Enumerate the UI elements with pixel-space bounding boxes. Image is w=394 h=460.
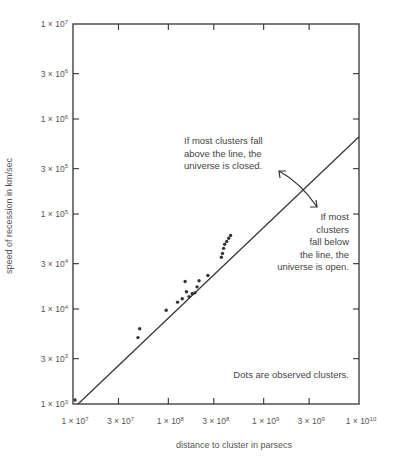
double-arrow-icon [279,171,317,207]
annotation-open-universe: fall below [309,236,349,247]
annotation-open-universe: universe is open. [277,261,349,272]
cluster-point [136,336,139,339]
y-tick-label: 1 × 104 [41,304,69,315]
cluster-point [187,295,190,298]
y-tick-label: 3 × 104 [41,258,69,269]
y-tick-label: 1 × 106 [41,114,69,125]
cluster-point [221,252,224,255]
cluster-point [206,274,209,277]
y-axis-title: speed of recession in km/sec [4,157,14,274]
cluster-point [73,398,76,401]
cluster-point [227,237,230,240]
x-tick-label: 1 × 109 [252,416,280,427]
annotation-closed-universe: If most clusters fall [184,135,263,146]
cluster-point [195,285,198,288]
x-tick-label: 1 × 108 [157,416,185,427]
cluster-point [225,240,228,243]
plot-frame [73,24,359,404]
y-tick-label: 1 × 105 [41,209,69,220]
annotation-open-universe: If most [320,211,349,222]
x-tick-label: 3 × 109 [298,416,326,427]
cluster-point [229,234,232,237]
cluster-point [185,290,188,293]
y-tick-label: 3 × 105 [41,163,69,174]
x-tick-label: 1 × 1010 [346,416,377,427]
y-tick-label: 1 × 103 [41,399,69,410]
cluster-point [223,243,226,246]
cluster-point [183,280,186,283]
cluster-point [165,309,168,312]
y-tick-label: 3 × 106 [41,68,69,79]
cluster-point [222,247,225,250]
x-axis-title: distance to cluster in parsecs [176,440,293,450]
cluster-point [138,327,141,330]
annotation-open-universe: the line, the [300,249,349,260]
x-tick-label: 1 × 107 [61,416,89,427]
y-tick-label: 3 × 103 [41,353,69,364]
x-tick-label: 3 × 107 [107,416,135,427]
annotation-closed-universe: universe is closed. [184,160,262,171]
y-tick-label: 1 × 107 [41,19,69,30]
cluster-point [176,300,179,303]
x-tick-label: 3 × 108 [202,416,230,427]
annotation-closed-universe: above the line, the [184,148,262,159]
cluster-point [193,291,196,294]
hubble-diagram: 1 × 1073 × 1071 × 1083 × 1081 × 1093 × 1… [0,0,394,460]
annotation-open-universe: clusters [316,224,349,235]
cluster-point [181,297,184,300]
dots-note: Dots are observed clusters. [233,369,349,380]
cluster-point [197,279,200,282]
cluster-point [220,256,223,259]
